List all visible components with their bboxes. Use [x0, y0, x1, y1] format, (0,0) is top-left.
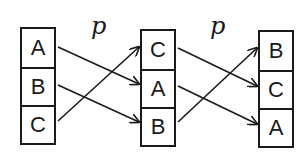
arrow-b-to-bottom — [58, 85, 139, 122]
arrow-c-to-middle — [178, 48, 257, 86]
permutation-label-2: p — [210, 12, 225, 40]
column-after-p-twice: B C A — [258, 30, 294, 148]
arrow-c-to-top — [58, 47, 139, 121]
cell: C — [142, 31, 174, 69]
arrow-a-to-bottom — [178, 86, 257, 124]
cell: A — [260, 108, 292, 146]
arrow-b-to-top — [178, 48, 257, 122]
cell: A — [22, 29, 54, 67]
arrow-a-to-middle — [58, 47, 139, 84]
column-after-p: C A B — [140, 29, 176, 147]
cell: B — [22, 67, 54, 105]
cell: B — [142, 107, 174, 145]
cell: B — [260, 32, 292, 70]
cell: A — [142, 69, 174, 107]
column-start: A B C — [20, 27, 56, 145]
cell: C — [22, 105, 54, 143]
permutation-diagram: p p A B C C A B B C A — [0, 0, 308, 158]
cell: C — [260, 70, 292, 108]
permutation-label-1: p — [91, 12, 106, 40]
